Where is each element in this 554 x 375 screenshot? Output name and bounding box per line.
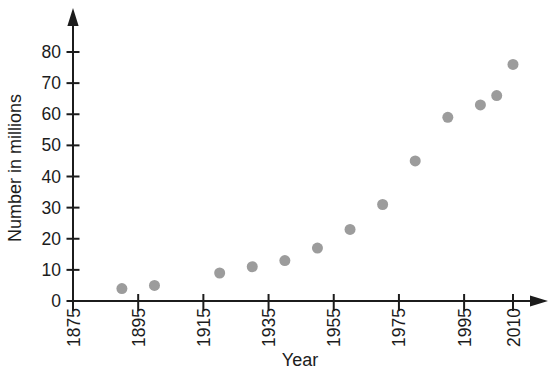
y-tick-label: 40 [42, 167, 62, 187]
data-point [279, 255, 290, 266]
x-tick-label: 1895 [129, 308, 149, 347]
data-point [377, 199, 388, 210]
data-point [442, 112, 453, 123]
x-axis-title: Year [282, 350, 318, 371]
data-point [345, 224, 356, 235]
y-tick-label: 0 [51, 291, 61, 311]
y-tick-label: 20 [42, 229, 62, 249]
scatter-chart: 0102030405060708018751895191519351955197… [0, 0, 554, 375]
x-axis-arrow-icon [530, 295, 548, 306]
x-tick-label: 1915 [194, 308, 214, 347]
data-point [116, 283, 127, 294]
y-tick-label: 60 [42, 104, 62, 124]
y-tick-label: 10 [42, 260, 62, 280]
x-tick-label: 1875 [64, 308, 84, 347]
y-tick-label: 30 [42, 198, 62, 218]
data-point [214, 267, 225, 278]
x-tick-label: 1995 [455, 308, 475, 347]
x-tick-label: 2010 [504, 308, 524, 347]
x-tick-label: 1955 [324, 308, 344, 347]
x-tick-label: 1935 [259, 308, 279, 347]
y-axis-title: Number in millions [5, 94, 26, 242]
y-axis-arrow-icon [67, 8, 78, 26]
x-tick-label: 1975 [389, 308, 409, 347]
data-point [247, 261, 258, 272]
data-point [149, 280, 160, 291]
y-tick-label: 50 [42, 135, 62, 155]
data-point [410, 155, 421, 166]
data-point [508, 59, 519, 70]
chart-container: 0102030405060708018751895191519351955197… [0, 0, 554, 375]
y-tick-label: 80 [42, 42, 62, 62]
y-tick-label: 70 [42, 73, 62, 93]
data-point [312, 243, 323, 254]
data-point [491, 90, 502, 101]
data-point [475, 99, 486, 110]
